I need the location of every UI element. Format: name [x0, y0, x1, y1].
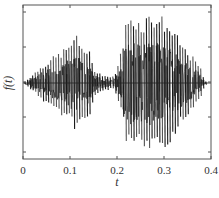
x-axis-tick-labels: 00.10.20.30.4 [20, 164, 218, 176]
x-tick-label: 0.4 [204, 164, 218, 176]
y-axis-label: f(t) [1, 76, 15, 91]
x-tick-label: 0.1 [63, 164, 77, 176]
x-axis-label: t [115, 175, 119, 189]
signal-trace [23, 16, 211, 148]
x-tick-label: 0.3 [157, 164, 171, 176]
waveform-chart: 00.10.20.30.4 t f(t) [0, 0, 219, 198]
x-tick-label: 0 [20, 164, 26, 176]
